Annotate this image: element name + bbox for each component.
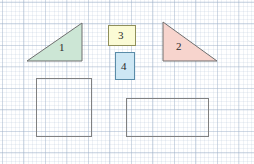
triangle-1-shape[interactable]: [27, 23, 82, 61]
square-5-shape[interactable]: [37, 79, 92, 137]
triangle-2-shape[interactable]: [163, 22, 217, 61]
rectangle-6-shape[interactable]: [127, 99, 209, 137]
rectangle-4-label: 4: [121, 61, 127, 72]
rectangle-3-label: 3: [118, 30, 124, 41]
shapes-layer: [0, 0, 254, 164]
triangle-1-label: 1: [59, 42, 65, 53]
worksheet-canvas: 1 2 3 4: [0, 0, 254, 164]
triangle-2-label: 2: [176, 41, 182, 52]
